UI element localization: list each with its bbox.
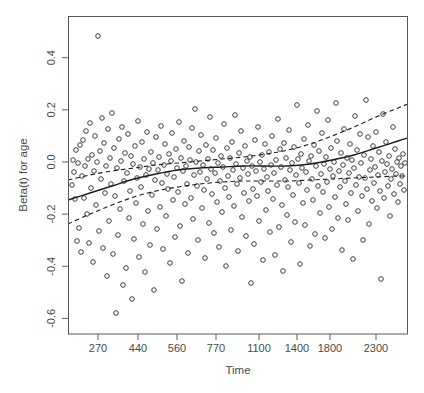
y-axis-tick-label: 0.2 (45, 102, 57, 117)
y-axis-tick-label: -0.2 (45, 205, 57, 224)
x-axis-tick-label: 1100 (247, 342, 271, 354)
y-axis-tick-label: 0.0 (45, 154, 57, 169)
r-scatter-plot-panel: 2704405607701100140018002300 0.40.20.0-0… (0, 0, 424, 393)
x-axis-tick-label: 1400 (285, 342, 309, 354)
y-axis-title: Beta(t) for age (17, 138, 29, 212)
plot-canvas: 2704405607701100140018002300 0.40.20.0-0… (0, 0, 424, 393)
y-axis-tick-label: 0.4 (45, 50, 57, 65)
x-axis-tick-label: 270 (89, 342, 107, 354)
x-axis-tick-label: 1800 (318, 342, 342, 354)
x-axis-tick-label: 2300 (364, 342, 388, 354)
x-axis-tick-label: 560 (168, 342, 186, 354)
x-axis-tick-label: 770 (207, 342, 225, 354)
x-axis-tick-label: 440 (129, 342, 147, 354)
y-axis-tick-label: -0.6 (45, 309, 57, 328)
y-axis-tick-label: -0.4 (45, 257, 57, 276)
x-axis-title: Time (225, 364, 250, 376)
